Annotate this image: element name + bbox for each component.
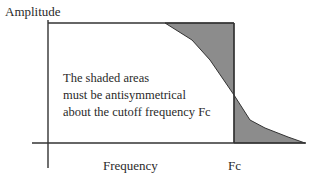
cutoff-frequency-label: Fc: [228, 158, 241, 173]
annotation-note: The shaded areas must be antisymmetrical…: [63, 70, 211, 121]
note-line: The shaded areas: [63, 70, 211, 87]
note-line: must be antisymmetrical: [63, 87, 211, 104]
y-axis-label: Amplitude: [5, 4, 61, 19]
note-line: about the cutoff frequency Fc: [63, 104, 211, 121]
x-axis-label: Frequency: [103, 158, 158, 173]
shaded-area-lower: [234, 95, 305, 143]
